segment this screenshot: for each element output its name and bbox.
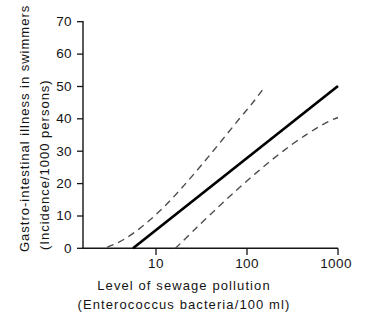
x-tick-label-1000: 1000 xyxy=(305,256,367,271)
x-axis-title-line1: Level of sewage pollution xyxy=(0,276,368,295)
fit-line xyxy=(133,86,338,248)
x-axis-title: Level of sewage pollution (Enterococcus … xyxy=(0,276,368,314)
upper-confidence-curve xyxy=(107,88,264,248)
lower-confidence-curve xyxy=(176,118,339,249)
y-axis-title-line2: (Incidence/1000 persons) xyxy=(37,79,52,250)
y-axis-title-line1: Gastro-intestinal illness in swimmers xyxy=(17,5,32,252)
y-axis-title: Gastro-intestinal illness in swimmers (I… xyxy=(0,0,50,262)
x-axis-title-line2: (Enterococcus bacteria/100 ml) xyxy=(0,295,368,314)
x-tick-label-100: 100 xyxy=(217,256,277,271)
y-tick-marks xyxy=(77,22,83,249)
chart-figure: 70 60 50 40 30 20 10 0 10 100 1000 Level… xyxy=(0,0,368,319)
x-tick-marks xyxy=(156,248,338,255)
x-tick-label-10: 10 xyxy=(131,256,181,271)
